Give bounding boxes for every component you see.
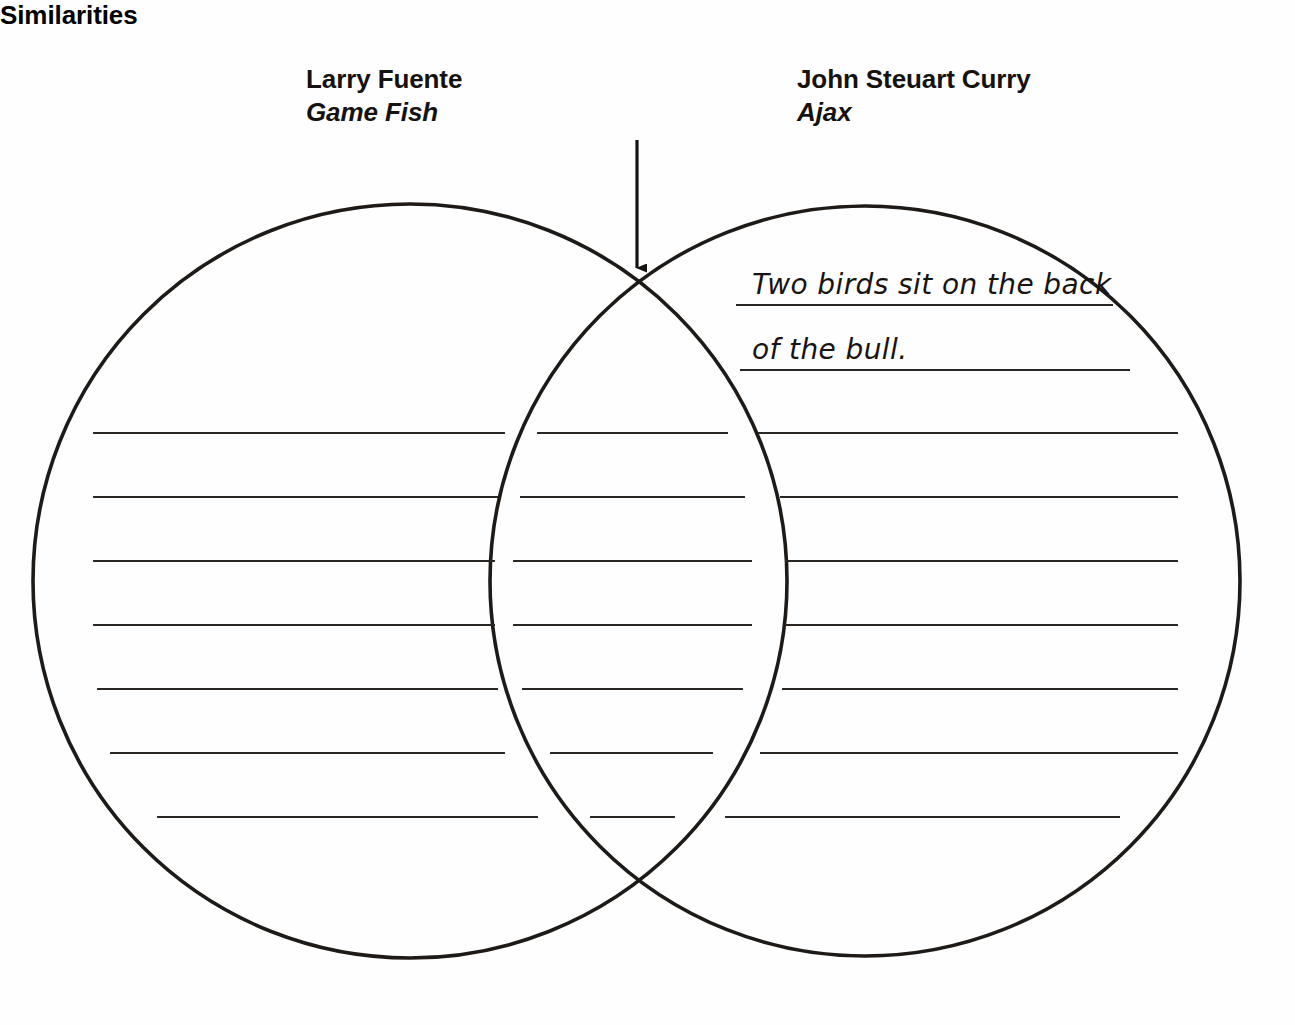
venn-diagram	[0, 0, 1295, 1025]
right-region-writing-lines	[725, 305, 1178, 817]
handwritten-answer-line-1[interactable]: Two birds sit on the back	[752, 268, 1112, 301]
handwritten-answer-line-2[interactable]: of the bull.	[752, 333, 908, 366]
left-circle-outline	[33, 204, 787, 958]
worksheet-page: Larry Fuente Game Fish Similarities John…	[0, 0, 1295, 1025]
middle-region-writing-lines	[513, 433, 752, 817]
left-region-writing-lines	[93, 433, 538, 817]
right-circle-outline	[490, 206, 1240, 956]
